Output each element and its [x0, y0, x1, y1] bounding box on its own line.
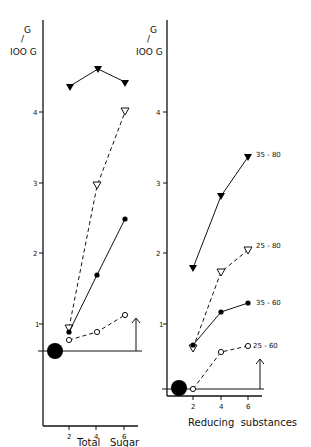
y-unit-top: G — [150, 25, 157, 35]
y-tick-1: 1 — [159, 321, 163, 329]
x-tick-4: 4 — [219, 403, 224, 411]
panel-reducing-substances: G / IOO G 4 3 2 1 2 4 6 35 - 80 25 — [136, 20, 297, 428]
panel-total-sugar: G / IOO G 4 3 2 1 2 4 6 — [10, 20, 142, 447]
y-tick-3: 3 — [33, 180, 37, 188]
legend-35-60: 35 - 60 — [256, 299, 281, 307]
series-25-60-line — [69, 315, 125, 340]
x-tick-6: 6 — [246, 403, 251, 411]
x-tick-2: 2 — [191, 403, 195, 411]
series-35-80-line — [193, 157, 248, 268]
series-35-60-line — [193, 303, 248, 345]
y-tick-2: 2 — [33, 250, 37, 258]
legend-25-60: 25 - 60 — [253, 342, 278, 350]
legend-35-80: 35 - 80 — [256, 151, 281, 159]
y-tick-4: 4 — [33, 109, 38, 117]
series-25-80-line — [69, 112, 125, 328]
x-axis-label-reducing-substances: Reducing substances — [188, 417, 297, 428]
y-tick-2: 2 — [156, 250, 160, 258]
y-tick-4: 4 — [156, 109, 161, 117]
chart-figure: G / IOO G 4 3 2 1 2 4 6 — [0, 0, 311, 447]
reference-dot — [171, 380, 187, 396]
x-axis-label-total-sugar: Total Sugar — [76, 437, 140, 447]
series-25-80-line — [193, 250, 248, 348]
y-unit-slash: / — [21, 34, 25, 44]
y-unit-slash: / — [147, 34, 151, 44]
y-tick-1: 1 — [35, 321, 39, 329]
y-tick-3: 3 — [156, 180, 160, 188]
legend-25-80: 25 - 80 — [256, 242, 281, 250]
y-unit-bottom: IOO G — [10, 47, 37, 57]
y-unit-bottom: IOO G — [136, 47, 163, 57]
x-tick-2: 2 — [67, 433, 71, 441]
reference-dot — [47, 343, 63, 359]
y-unit-top: G — [24, 25, 31, 35]
